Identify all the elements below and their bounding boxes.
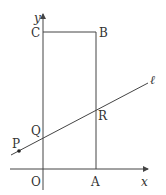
label-q: Q: [31, 124, 41, 138]
x-axis-label: x: [141, 175, 148, 189]
y-axis-label: y: [33, 11, 41, 25]
label-a: A: [90, 175, 100, 189]
coordinate-diagram: y C B ℓ R Q P O A x: [0, 0, 166, 195]
label-c: C: [31, 26, 40, 40]
label-p: P: [12, 137, 20, 151]
label-r: R: [98, 109, 108, 123]
label-b: B: [99, 26, 108, 40]
label-o: O: [31, 175, 41, 189]
line-l: [11, 83, 148, 155]
line-l-label: ℓ: [150, 73, 155, 87]
